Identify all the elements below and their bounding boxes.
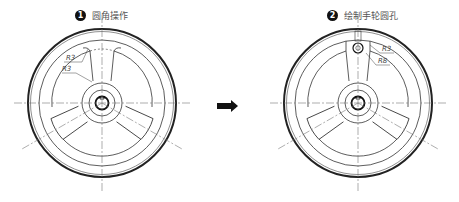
dimension-r3-lower: R3 xyxy=(62,65,71,73)
dimension-r8: R8 xyxy=(378,57,388,65)
right-arrow-icon xyxy=(217,100,238,112)
handwheel-step-1: R3 R3 xyxy=(14,15,190,191)
dimension-r3: R3 xyxy=(382,45,391,53)
handwheel-drawings: R3 R3 R3 R8 xyxy=(0,0,459,202)
dimension-r3-upper: R3 xyxy=(66,54,75,62)
handwheel-step-2: R3 R8 xyxy=(270,15,446,191)
